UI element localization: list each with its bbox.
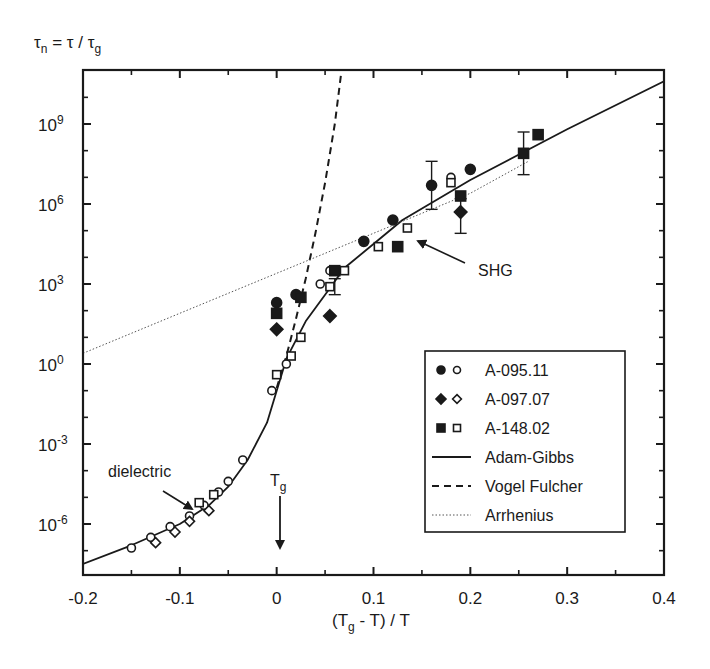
x-tick-label: -0.1: [165, 589, 194, 608]
y-tick-label: 106: [38, 193, 64, 215]
arrow-icon: [418, 241, 465, 263]
annotation-dielectric: dielectric: [108, 463, 192, 509]
legend-label: Vogel Fulcher: [485, 478, 584, 495]
open-square-point: [297, 333, 305, 341]
filled-diamond-point: [324, 310, 337, 323]
filled-square-point: [272, 308, 282, 318]
open-square-point: [403, 224, 411, 232]
x-tick-label: 0.4: [652, 589, 676, 608]
open-square-point: [374, 243, 382, 251]
y-tick-label: 109: [38, 113, 64, 135]
filled-circle-point: [359, 236, 369, 246]
x-tick-label: 0.2: [459, 589, 483, 608]
open-circle-point: [282, 360, 290, 368]
curve-arrhenius: [83, 161, 528, 353]
filled-circle-point: [272, 298, 282, 308]
legend-circle-open-icon: [454, 367, 461, 374]
legend-square-filled-icon: [437, 424, 445, 432]
x-tick-label: 0: [272, 589, 281, 608]
open-circle-point: [239, 456, 247, 464]
open-circle-point: [316, 280, 324, 288]
open-square-point: [273, 371, 281, 379]
legend-label: A-095.11: [485, 362, 549, 379]
filled-square-point: [519, 148, 529, 158]
legend: A-095.11A-097.07A-148.02Adam-GibbsVogel …: [425, 351, 625, 532]
chart: τn = τ / τg -0.2-0.100.10.20.30.41091061…: [0, 0, 710, 669]
filled-square-point: [330, 266, 340, 276]
x-tick-label: 0.3: [555, 589, 579, 608]
filled-circle-point: [388, 215, 398, 225]
legend-label: A-097.07: [485, 391, 550, 408]
y-tick-label: 10-3: [38, 433, 68, 455]
y-tick-label: 103: [38, 273, 64, 295]
filled-square-point: [393, 242, 403, 252]
svg-text:Tg: Tg: [270, 472, 286, 494]
filled-square-point: [296, 292, 306, 302]
open-circle-point: [268, 387, 276, 395]
x-tick-label: 0.1: [362, 589, 386, 608]
open-square-point: [340, 267, 348, 275]
svg-text:dielectric: dielectric: [108, 463, 171, 480]
x-axis-title: (Tg - T) / T: [332, 611, 410, 634]
legend-circle-filled-icon: [437, 366, 445, 374]
filled-square-point: [456, 191, 466, 201]
legend-label: A-148.02: [485, 420, 550, 437]
filled-circle-point: [465, 164, 475, 174]
filled-square-point: [533, 130, 543, 140]
legend-square-open-icon: [454, 425, 461, 432]
open-square-point: [210, 491, 218, 499]
x-tick-label: -0.2: [68, 589, 97, 608]
annotation-shg: SHG: [418, 241, 513, 279]
open-circle-point: [127, 544, 135, 552]
open-square-point: [326, 283, 334, 291]
svg-text:SHG: SHG: [478, 262, 513, 279]
filled-diamond-point: [270, 323, 283, 336]
y-tick-label: 10-6: [38, 513, 68, 535]
legend-label: Adam-Gibbs: [485, 449, 574, 466]
curve-vogel-fulcher: [277, 71, 342, 388]
open-circle-point: [224, 477, 232, 485]
y-axis-title: τn = τ / τg: [34, 33, 101, 56]
annotation-tg: Tg: [270, 472, 286, 548]
y-tick-label: 100: [38, 353, 64, 375]
open-square-point: [195, 499, 203, 507]
filled-diamond-point: [454, 206, 467, 219]
arrow-icon: [163, 491, 192, 509]
legend-label: Arrhenius: [485, 507, 553, 524]
filled-circle-point: [427, 180, 437, 190]
open-square-point: [287, 352, 295, 360]
open-square-point: [447, 179, 455, 187]
